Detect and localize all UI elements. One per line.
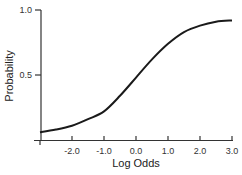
- probability-curve: [40, 20, 232, 132]
- x-tick-label: -1.0: [96, 146, 112, 156]
- logistic-chart: -2.0-1.00.01.02.03.0 0.51.0 Log Odds Pro…: [0, 0, 242, 175]
- x-tick-label: -2.0: [64, 146, 80, 156]
- x-axis-title: Log Odds: [112, 157, 160, 169]
- axes: [34, 10, 233, 145]
- x-axis-ticks: -2.0-1.00.01.02.03.0: [64, 136, 238, 156]
- x-tick-label: 3.0: [226, 146, 239, 156]
- y-axis-title: Probability: [3, 50, 15, 102]
- x-tick-label: 2.0: [194, 146, 207, 156]
- y-tick-label: 1.0: [19, 5, 32, 15]
- x-tick-label: 1.0: [162, 146, 175, 156]
- x-tick-label: 0.0: [130, 146, 143, 156]
- y-tick-label: 0.5: [19, 70, 32, 80]
- y-axis-ticks: 0.51.0: [19, 5, 41, 80]
